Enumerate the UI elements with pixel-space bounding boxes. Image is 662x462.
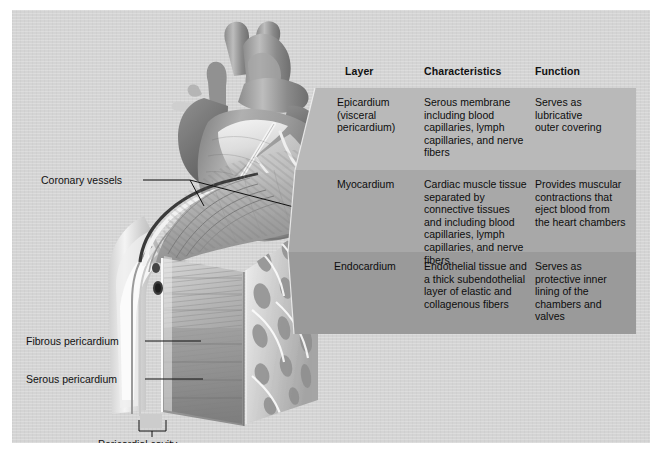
cell-characteristics: Endothelial tissue and a thick subendoth…	[424, 260, 538, 310]
figure-root: Coronary vessels Fibrous pericardium Ser…	[0, 0, 662, 462]
cell-layer: Endocardium	[334, 260, 422, 273]
anterior-heart-illustration	[172, 21, 337, 241]
table-header-characteristics: Characteristics	[424, 65, 501, 77]
table-header-function: Function	[535, 65, 580, 77]
cell-characteristics: Serous membrane including blood capillar…	[424, 96, 536, 159]
heart-wall-cross-section	[108, 150, 332, 430]
cell-characteristics: Cardiac muscle tissue separated by conne…	[424, 178, 536, 266]
label-serous-pericardium: Serous pericardium	[26, 373, 117, 385]
label-pericardial-cavity: Pericardial cavity	[98, 438, 177, 443]
cell-layer: Myocardium	[337, 178, 422, 191]
table-header-layer: Layer	[345, 65, 374, 77]
leader-lines	[139, 180, 294, 437]
cell-function: Serves as lubricative outer covering	[535, 96, 639, 134]
cut-coronary-vessel	[190, 194, 244, 226]
cell-function: Serves as protective inner lining of the…	[535, 260, 639, 323]
cell-function: Provides muscular contractions that ejec…	[535, 178, 641, 228]
illustration-panel: Coronary vessels Fibrous pericardium Ser…	[12, 10, 650, 443]
cell-layer: Epicardium (visceral pericardium)	[337, 96, 422, 134]
label-fibrous-pericardium: Fibrous pericardium	[26, 335, 119, 347]
label-coronary-vessels: Coronary vessels	[41, 174, 122, 186]
